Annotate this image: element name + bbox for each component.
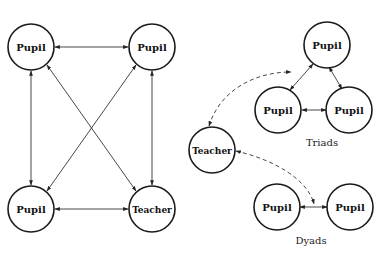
node-label: Pupil — [16, 204, 46, 215]
node-pupil-top-left: Pupil — [8, 24, 54, 70]
node-label: Pupil — [312, 40, 342, 51]
edge-tp1-tp2 — [290, 64, 313, 90]
node-triad-pupil-left: Pupil — [255, 87, 301, 133]
node-label: Pupil — [16, 42, 46, 53]
triads-caption: Triads — [306, 137, 338, 148]
node-triad-pupil-right: Pupil — [326, 87, 372, 133]
edge-tp1-tp3 — [329, 67, 342, 89]
left-group-edges — [31, 47, 152, 209]
node-dyad-pupil-right: Pupil — [327, 184, 373, 230]
node-triad-pupil-top: Pupil — [304, 22, 350, 68]
diagram-canvas: Pupil Pupil Pupil Teacher Pupil Pupil Pu… — [0, 0, 383, 257]
node-label: Teacher — [132, 205, 172, 215]
node-label: Pupil — [262, 202, 292, 213]
node-teacher-bottom-right: Teacher — [129, 186, 175, 232]
node-label: Pupil — [335, 202, 365, 213]
node-label: Pupil — [137, 42, 167, 53]
node-pupil-top-right: Pupil — [129, 24, 175, 70]
node-teacher-right: Teacher — [189, 127, 235, 173]
node-dyad-pupil-left: Pupil — [254, 184, 300, 230]
node-label: Pupil — [263, 105, 293, 116]
node-label: Teacher — [192, 146, 232, 156]
node-label: Pupil — [334, 105, 364, 116]
dyads-caption: Dyads — [295, 235, 326, 246]
node-pupil-bottom-left: Pupil — [8, 186, 54, 232]
